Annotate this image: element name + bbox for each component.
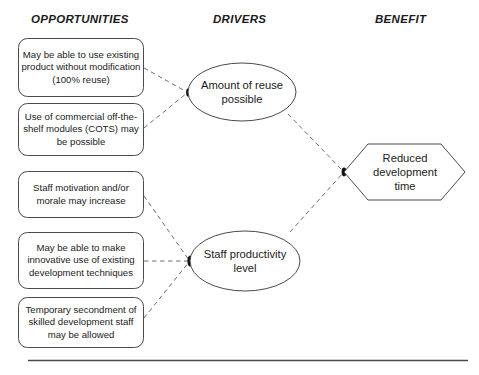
diagram-canvas: OPPORTUNITIES DRIVERS BENEFIT May be abl…	[0, 0, 479, 375]
opportunity-node-cots-modules[interactable]	[18, 103, 144, 156]
connector-group-opportunities-to-drivers	[144, 68, 189, 318]
connector-reuse-to-reduced-time	[288, 114, 343, 171]
driver-node-reuse[interactable]	[188, 63, 296, 121]
opportunity-node-innovative-use[interactable]	[18, 232, 144, 289]
connector-group-drivers-to-benefit	[288, 114, 343, 232]
connector-staff-motivation-to-productivity	[144, 196, 189, 260]
connector-existing-product-to-reuse	[144, 68, 187, 92]
connector-cots-to-reuse	[144, 93, 187, 128]
connector-secondment-to-productivity	[144, 262, 189, 318]
column-header-opportunities: OPPORTUNITIES	[31, 13, 129, 25]
opportunity-node-secondment[interactable]	[18, 297, 144, 348]
driver-node-productivity[interactable]	[190, 231, 300, 291]
opportunity-node-staff-motivation[interactable]	[18, 171, 144, 218]
column-header-benefit: BENEFIT	[375, 13, 426, 25]
opportunity-node-existing-product[interactable]	[18, 38, 144, 97]
column-header-drivers: DRIVERS	[213, 13, 266, 25]
connector-productivity-to-reduced-time	[290, 173, 343, 232]
benefit-node-reduced-time[interactable]	[344, 144, 465, 200]
